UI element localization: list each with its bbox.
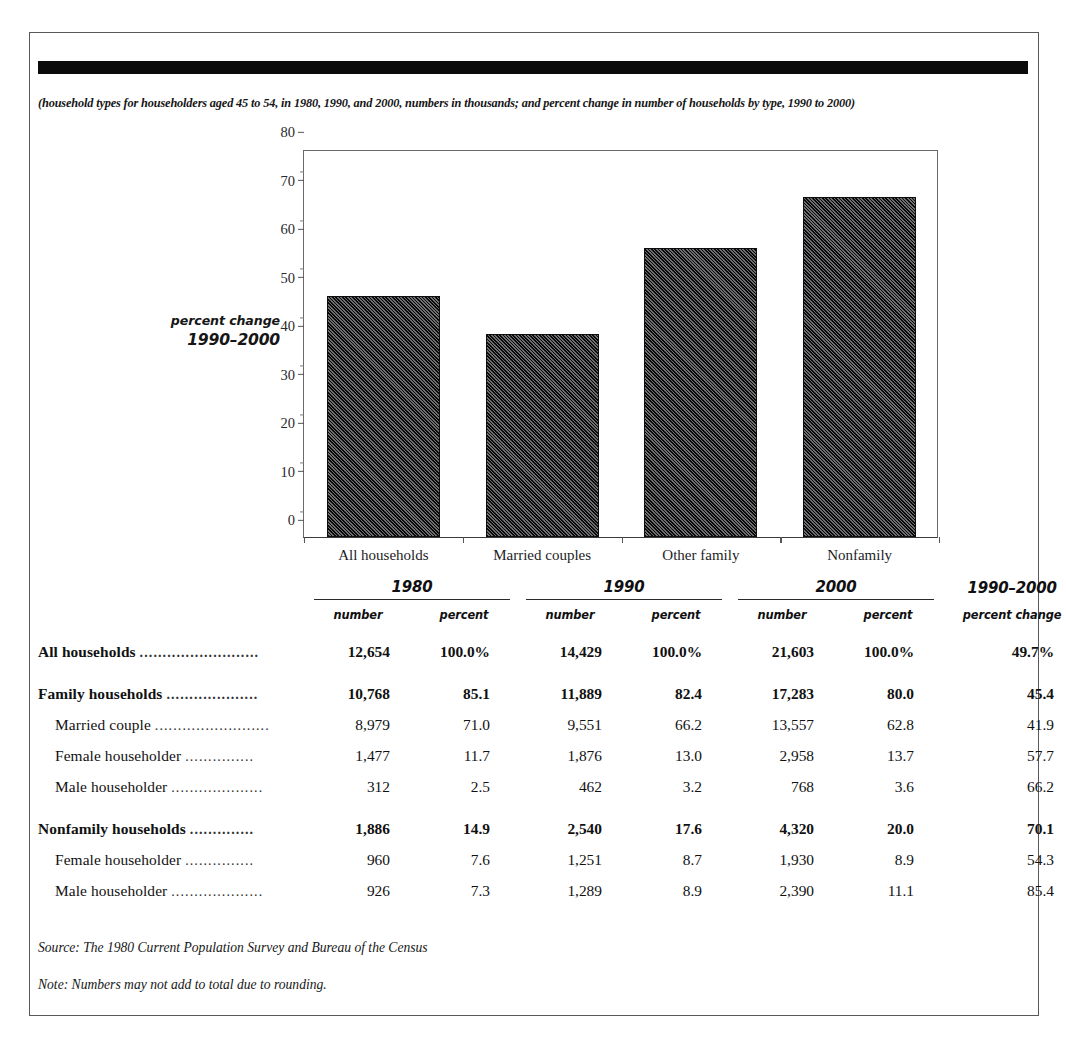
sub-header-1990-number: number — [518, 602, 622, 634]
row-label: Female householder ............... — [38, 842, 306, 873]
cell-2000-percent: 3.6 — [834, 769, 942, 800]
cell-1990-number: 14,429 — [518, 634, 622, 665]
cell-1980-percent: 7.3 — [410, 873, 518, 904]
cell-1980-percent: 11.7 — [410, 738, 518, 769]
cell-percent-change: 45.4 — [942, 665, 1066, 707]
cell-2000-percent: 62.8 — [834, 707, 942, 738]
leader-dots: .................... — [171, 884, 263, 899]
cell-1990-number: 11,889 — [518, 665, 622, 707]
y-axis-tick-label: 60 — [281, 221, 305, 238]
leader-dots: .......................... — [140, 645, 260, 660]
x-axis-tick — [939, 537, 940, 543]
cell-2000-percent: 100.0% — [834, 634, 942, 665]
y-axis-tick-label: 80 — [281, 124, 305, 141]
row-label-text: Female householder — [55, 851, 185, 868]
cell-1980-number: 312 — [306, 769, 410, 800]
cell-1990-percent: 82.4 — [622, 665, 730, 707]
household-types-table: 1980 1990 2000 1990–2000 number percent … — [38, 578, 1066, 904]
cell-1980-number: 1,477 — [306, 738, 410, 769]
cell-2000-percent: 80.0 — [834, 665, 942, 707]
cell-1980-number: 1,886 — [306, 800, 410, 842]
cell-2000-percent: 13.7 — [834, 738, 942, 769]
y-axis-tick-label: 50 — [281, 269, 305, 286]
year-header-2000: 2000 — [730, 578, 942, 602]
table-body: All households .........................… — [38, 634, 1066, 904]
sub-header-1990-percent: percent — [622, 602, 730, 634]
year-header-spacer — [38, 578, 306, 602]
y-axis-tick-label: 0 — [288, 512, 304, 529]
table-row: Male householder ....................926… — [38, 873, 1066, 904]
y-axis-tick-label: 70 — [281, 172, 305, 189]
table-head: 1980 1990 2000 1990–2000 number percent … — [38, 578, 1066, 634]
row-label-text: All households — [38, 643, 140, 660]
cell-1980-percent: 2.5 — [410, 769, 518, 800]
cell-1990-percent: 100.0% — [622, 634, 730, 665]
cell-2000-number: 2,390 — [730, 873, 834, 904]
x-axis-tick-label: Married couples — [493, 547, 591, 564]
cell-percent-change: 57.7 — [942, 738, 1066, 769]
y-axis-tick-label: 40 — [281, 318, 305, 335]
cell-1990-percent: 8.7 — [622, 842, 730, 873]
bar-chart: percent change 1990–2000 010203040506070… — [0, 0, 1057, 580]
cell-1980-number: 10,768 — [306, 665, 410, 707]
year-header-1990: 1990 — [518, 578, 730, 602]
x-axis-tick — [463, 537, 464, 543]
sub-header-spacer — [38, 602, 306, 634]
sub-header-1980-percent: percent — [410, 602, 518, 634]
leader-dots: ............... — [185, 749, 254, 764]
sub-header-percent-change: percent change — [942, 602, 1066, 634]
cell-percent-change: 41.9 — [942, 707, 1066, 738]
cell-1990-number: 1,251 — [518, 842, 622, 873]
x-axis-tick — [304, 537, 305, 543]
y-axis-note-line2: 1990–2000 — [152, 330, 280, 351]
cell-percent-change: 49.7% — [942, 634, 1066, 665]
leader-dots: ......................... — [155, 718, 270, 733]
row-label-text: Female householder — [55, 747, 185, 764]
row-label-text: Male householder — [55, 882, 171, 899]
cell-percent-change: 66.2 — [942, 769, 1066, 800]
cell-2000-number: 768 — [730, 769, 834, 800]
row-label-text: Male householder — [55, 778, 171, 795]
cell-2000-percent: 8.9 — [834, 842, 942, 873]
cell-1990-percent: 66.2 — [622, 707, 730, 738]
cell-2000-number: 17,283 — [730, 665, 834, 707]
sub-header-2000-number: number — [730, 602, 834, 634]
table-row: Female householder ...............1,4771… — [38, 738, 1066, 769]
x-axis-tick-label: All households — [338, 547, 428, 564]
cell-2000-percent: 11.1 — [834, 873, 942, 904]
cell-1990-number: 1,289 — [518, 873, 622, 904]
cell-1980-percent: 85.1 — [410, 665, 518, 707]
row-label: Male householder .................... — [38, 873, 306, 904]
cell-1980-percent: 100.0% — [410, 634, 518, 665]
table-row: All households .........................… — [38, 634, 1066, 665]
cell-2000-number: 13,557 — [730, 707, 834, 738]
x-axis-tick — [780, 537, 781, 543]
sub-header-row: number percent number percent number per… — [38, 602, 1066, 634]
cell-2000-number: 2,958 — [730, 738, 834, 769]
data-table: 1980 1990 2000 1990–2000 number percent … — [38, 578, 1028, 904]
cell-1980-percent: 71.0 — [410, 707, 518, 738]
table-row: Male householder ....................312… — [38, 769, 1066, 800]
cell-1990-number: 1,876 — [518, 738, 622, 769]
leader-dots: .............. — [190, 822, 254, 837]
bar — [327, 296, 440, 537]
y-axis-tick-label: 10 — [281, 463, 305, 480]
cell-1980-percent: 14.9 — [410, 800, 518, 842]
cell-2000-number: 1,930 — [730, 842, 834, 873]
row-label: Married couple ......................... — [38, 707, 306, 738]
y-axis-tick-label: 30 — [281, 366, 305, 383]
leader-dots: .................... — [166, 687, 258, 702]
year-header-change: 1990–2000 — [942, 578, 1066, 602]
cell-2000-number: 21,603 — [730, 634, 834, 665]
table-row: Female householder ...............9607.6… — [38, 842, 1066, 873]
rounding-note: Note: Numbers may not add to total due t… — [38, 977, 327, 993]
leader-dots: .................... — [171, 780, 263, 795]
row-label-text: Married couple — [55, 716, 155, 733]
cell-2000-number: 4,320 — [730, 800, 834, 842]
cell-percent-change: 70.1 — [942, 800, 1066, 842]
year-header-row: 1980 1990 2000 1990–2000 — [38, 578, 1066, 602]
cell-1990-percent: 13.0 — [622, 738, 730, 769]
source-note: Source: The 1980 Current Population Surv… — [38, 940, 428, 956]
y-axis-note: percent change 1990–2000 — [152, 313, 280, 350]
bar — [486, 334, 599, 537]
